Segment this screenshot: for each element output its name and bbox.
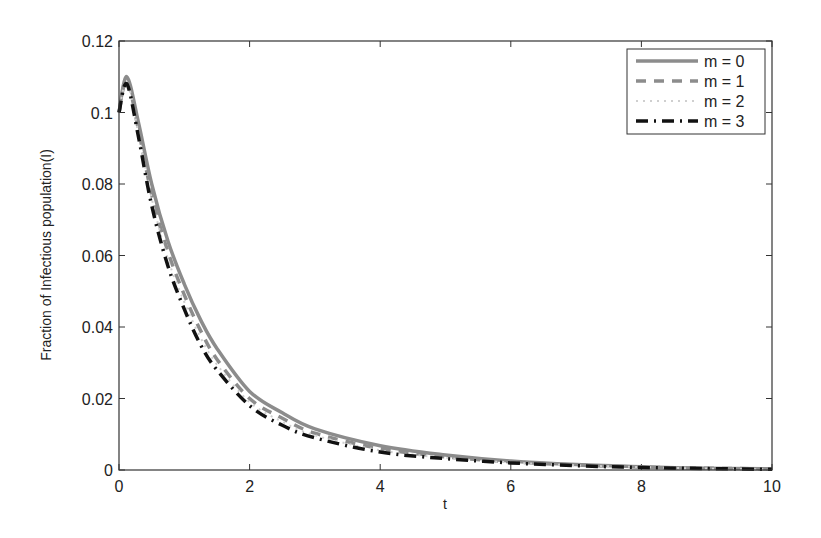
legend-label-m0: m = 0 <box>704 53 745 70</box>
series-line-m1 <box>119 80 772 469</box>
x-axis-label: t <box>443 496 447 512</box>
y-tick-label: 0.12 <box>82 33 113 50</box>
x-tick-label: 6 <box>506 478 515 495</box>
x-tick-label: 10 <box>763 478 781 495</box>
legend-label-m3: m = 3 <box>704 113 745 130</box>
y-tick-label: 0.06 <box>82 248 113 265</box>
legend: m = 0m = 1m = 2m = 3 <box>627 49 765 134</box>
x-tick-label: 8 <box>637 478 646 495</box>
plot-curves <box>119 77 772 470</box>
x-tick-label: 2 <box>245 478 254 495</box>
legend-label-m1: m = 1 <box>704 73 745 90</box>
legend-label-m2: m = 2 <box>704 93 745 110</box>
y-tick-label: 0.1 <box>91 105 113 122</box>
series-line-m0 <box>119 77 772 469</box>
x-tick-label: 0 <box>115 478 124 495</box>
series-line-m2 <box>119 82 772 470</box>
y-axis-label: Fraction of Infectious population(I) <box>38 149 54 361</box>
y-tick-label: 0.02 <box>82 391 113 408</box>
y-tick-label: 0.04 <box>82 319 113 336</box>
line-chart: 0246810 00.020.040.060.080.10.12 t Fract… <box>0 0 821 538</box>
series-line-m3 <box>119 83 772 469</box>
x-tick-label: 4 <box>376 478 385 495</box>
x-tick-labels: 0246810 <box>115 478 781 495</box>
y-tick-label: 0.08 <box>82 176 113 193</box>
y-tick-labels: 00.020.040.060.080.10.12 <box>82 33 113 479</box>
y-tick-label: 0 <box>104 462 113 479</box>
